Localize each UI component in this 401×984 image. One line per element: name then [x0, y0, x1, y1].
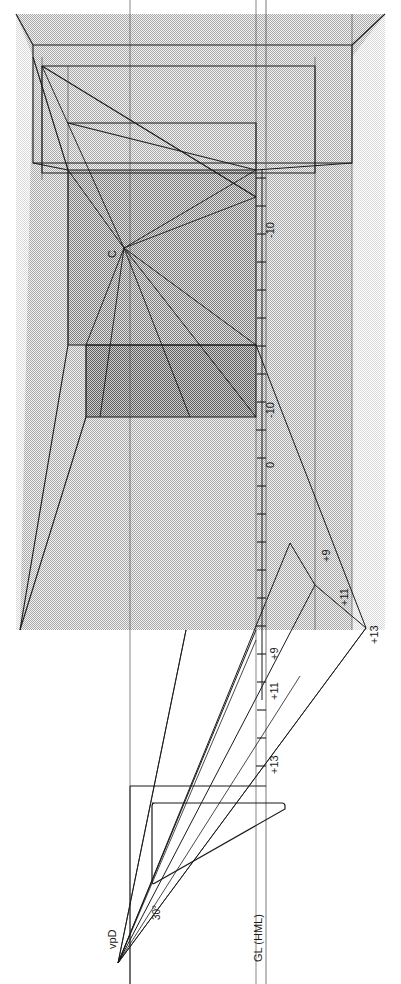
tone-fields [16, 14, 385, 630]
scale-label-minus10-upper: -10 [264, 222, 276, 238]
scale-label-plus11: +11 [338, 588, 350, 606]
plan-label-plus13: +13 [268, 755, 280, 774]
scale-label-zero: 0 [264, 462, 276, 468]
plan-label-plus9: +9 [268, 647, 280, 660]
fan-ray-a [118, 640, 256, 963]
envelope-run-11 [118, 585, 315, 963]
plan-label-plus11: +11 [268, 682, 280, 700]
tone-ceiling-plane [16, 14, 385, 57]
figure-canvas: vpD GL (HML) 30° C -10 -10 0 +9 +11 +13 … [0, 0, 401, 984]
label-ground-line: GL (HML) [252, 914, 264, 962]
scale-label-minus10-lower: -10 [264, 402, 276, 418]
label-cone-angle: 30° [151, 905, 162, 920]
tone-floor-slab [86, 345, 256, 417]
scale-label-plus9: +9 [320, 549, 332, 562]
fan-ray-b [118, 676, 300, 963]
plan-object-outline [152, 803, 285, 884]
label-vpD: vpD [106, 929, 118, 949]
label-center-of-vision: C [106, 250, 118, 258]
plan-view [118, 628, 366, 984]
perspective-drawing: vpD GL (HML) 30° C -10 -10 0 +9 +11 +13 … [0, 0, 401, 984]
envelope-run-axis [118, 630, 256, 963]
scale-label-plus13: +13 [368, 625, 380, 644]
